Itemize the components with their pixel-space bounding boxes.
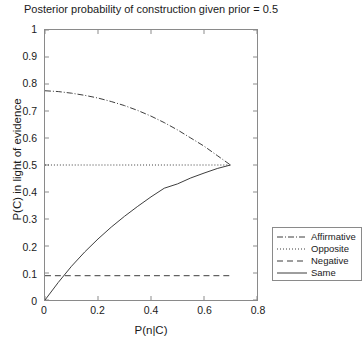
legend-item-affirmative: Affirmative — [273, 231, 361, 243]
legend-item-negative: Negative — [273, 255, 361, 267]
chart-title: Posterior probability of construction gi… — [0, 3, 302, 16]
legend-label-negative: Negative — [311, 256, 349, 266]
x-axis-tick-labels: 00.20.40.60.8 — [0, 304, 354, 320]
series-line-affirmative — [45, 91, 231, 165]
legend-line-negative-icon — [276, 255, 308, 267]
series-line-same — [45, 165, 231, 300]
x-tick-label: 0.6 — [197, 304, 212, 316]
legend-item-opposite: Opposite — [273, 243, 361, 255]
x-tick-label: 0.8 — [251, 304, 266, 316]
x-tick-label: 0.2 — [90, 304, 105, 316]
y-tick-label: 0.3 — [22, 214, 37, 225]
chart-legend: Affirmative Opposite Negative Same — [272, 227, 362, 281]
x-tick-label: 0.4 — [144, 304, 159, 316]
y-tick-label: 0.6 — [22, 133, 37, 144]
legend-item-same: Same — [273, 267, 361, 279]
plot-canvas — [45, 30, 257, 300]
y-axis-label: P(C) in light of evidence — [11, 80, 24, 240]
legend-line-same-icon — [276, 267, 308, 279]
y-tick-label: 0.1 — [22, 269, 37, 280]
legend-line-opposite-icon — [276, 243, 308, 255]
y-tick-label: 0.9 — [22, 51, 37, 62]
y-tick-label: 0.4 — [22, 187, 37, 198]
legend-label-affirmative: Affirmative — [311, 232, 356, 242]
y-tick-label: 0.2 — [22, 241, 37, 252]
y-tick-label: 0.7 — [22, 105, 37, 116]
plot-area — [44, 29, 258, 301]
legend-line-affirmative-icon — [276, 231, 308, 243]
legend-label-opposite: Opposite — [311, 244, 349, 254]
legend-label-same: Same — [311, 268, 336, 278]
y-tick-label: 0.8 — [22, 78, 37, 89]
x-tick-label: 0 — [41, 304, 47, 316]
x-axis-label: P(n|C) — [44, 324, 258, 337]
y-tick-label: 1 — [31, 24, 37, 35]
y-tick-label: 0.5 — [22, 160, 37, 171]
